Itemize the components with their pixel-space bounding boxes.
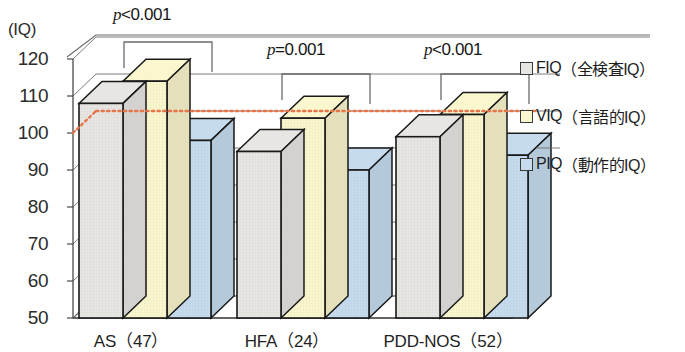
bar-AS（47）-FIQ-texture [79,103,123,318]
legend-label-fiq-short: FIQ [536,59,561,77]
pvalue-annotation-as: p<0.001 [113,5,171,25]
legend-label-viq-desc: （言語的IQ） [562,104,655,128]
pvalue-text-as: <0.001 [121,5,171,24]
bar-PDD-NOS（52）-FIQ-side-shade [440,115,463,318]
pvalue-annotation-pdd: p<0.001 [424,40,482,60]
bar-HFA（24）-FIQ-texture [237,152,281,319]
bar-AS（47）-FIQ-side-shade [123,81,146,318]
pvalue-text-pdd: <0.001 [432,40,482,59]
bar-HFA（24）-PIQ-side-shade [369,148,392,318]
legend-label-piq-short: PIQ [536,155,562,173]
legend-swatch-fiq-icon [520,62,533,75]
bar-HFA（24）-VIQ-side-shade [325,96,348,318]
bar-PDD-NOS（52）-VIQ-side-shade [484,93,507,319]
legend-item-viq[interactable]: VIQ （言語的IQ） [520,92,685,140]
pvalue-annotation-hfa: p=0.001 [267,40,325,60]
bar-PDD-NOS（52）-FIQ-texture [396,137,440,318]
x-label-hfa: HFA（24） [245,327,330,352]
x-label-pdd: PDD-NOS（52） [383,327,512,352]
legend: FIQ （全検査IQ） VIQ （言語的IQ） PIQ （動作的IQ） [520,44,685,188]
legend-label-fiq-desc: （全検査IQ） [561,56,654,80]
legend-label-piq-desc: （動作的IQ） [562,152,655,176]
legend-label-viq-short: VIQ [536,107,562,125]
bar-AS（47）-PIQ-side-shade [211,118,234,318]
pvalue-p-italic-pdd: p [424,40,432,59]
bar-HFA（24）-FIQ-side-shade [281,130,304,319]
depth-connector-120 [73,37,96,59]
x-label-as: AS（47） [94,327,168,352]
pvalue-p-italic-hfa: p [267,40,275,59]
pvalue-text-hfa: =0.001 [275,40,325,59]
legend-swatch-viq-icon [520,110,533,123]
legend-item-fiq[interactable]: FIQ （全検査IQ） [520,44,685,92]
legend-item-piq[interactable]: PIQ （動作的IQ） [520,140,685,188]
bar-AS（47）-VIQ-side-shade [167,59,190,318]
pvalue-p-italic-as: p [113,5,121,24]
legend-swatch-piq-icon [520,158,533,171]
